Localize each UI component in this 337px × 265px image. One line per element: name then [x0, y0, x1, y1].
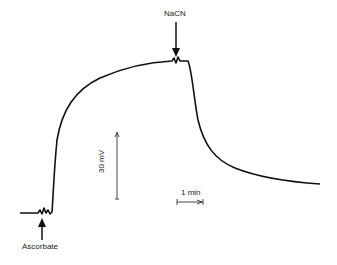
- time-scale-label: 1 min: [181, 188, 201, 197]
- trace-plot: [0, 0, 337, 265]
- voltage-scale-label: 30 mV: [97, 150, 106, 173]
- voltage-scale-bar: [115, 132, 119, 199]
- nacn-arrow-icon: [172, 22, 180, 57]
- ascorbate-arrow-icon: [38, 218, 46, 240]
- nacn-label: NaCN: [164, 9, 186, 18]
- membrane-potential-trace: [20, 57, 320, 214]
- ascorbate-label: Ascorbate: [22, 242, 58, 251]
- time-scale-bar: [177, 199, 203, 205]
